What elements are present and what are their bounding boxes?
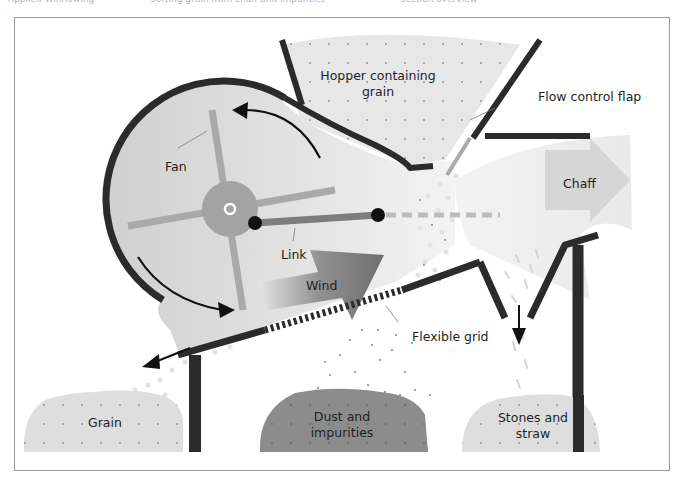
label-grain: Grain xyxy=(88,415,122,430)
grain-exit-arrowhead xyxy=(142,354,160,369)
label-stones-line2: straw xyxy=(516,426,550,441)
label-stones-line1: Stones and xyxy=(498,410,568,425)
label-flow-control-flap: Flow control flap xyxy=(538,89,641,104)
label-link: Link xyxy=(281,247,307,262)
label-dust-line1: Dust and xyxy=(314,409,370,424)
chaff-zone xyxy=(455,135,632,300)
link-pivot-fan xyxy=(248,216,262,230)
winnowing-machine-diagram: Hopper containing grain Flow control fla… xyxy=(0,0,685,488)
label-flexible-grid: Flexible grid xyxy=(412,329,489,344)
label-dust-line2: impurities xyxy=(311,425,374,440)
funnel-left xyxy=(480,262,505,318)
fan-hub xyxy=(202,181,258,237)
label-fan: Fan xyxy=(165,159,187,174)
label-wind: Wind xyxy=(306,278,337,293)
label-chaff: Chaff xyxy=(563,176,596,191)
label-hopper-line1: Hopper containing xyxy=(320,68,435,83)
link-pivot-grid xyxy=(371,208,385,222)
right-post-overlay xyxy=(573,395,584,452)
label-hopper-line2: grain xyxy=(362,84,394,99)
